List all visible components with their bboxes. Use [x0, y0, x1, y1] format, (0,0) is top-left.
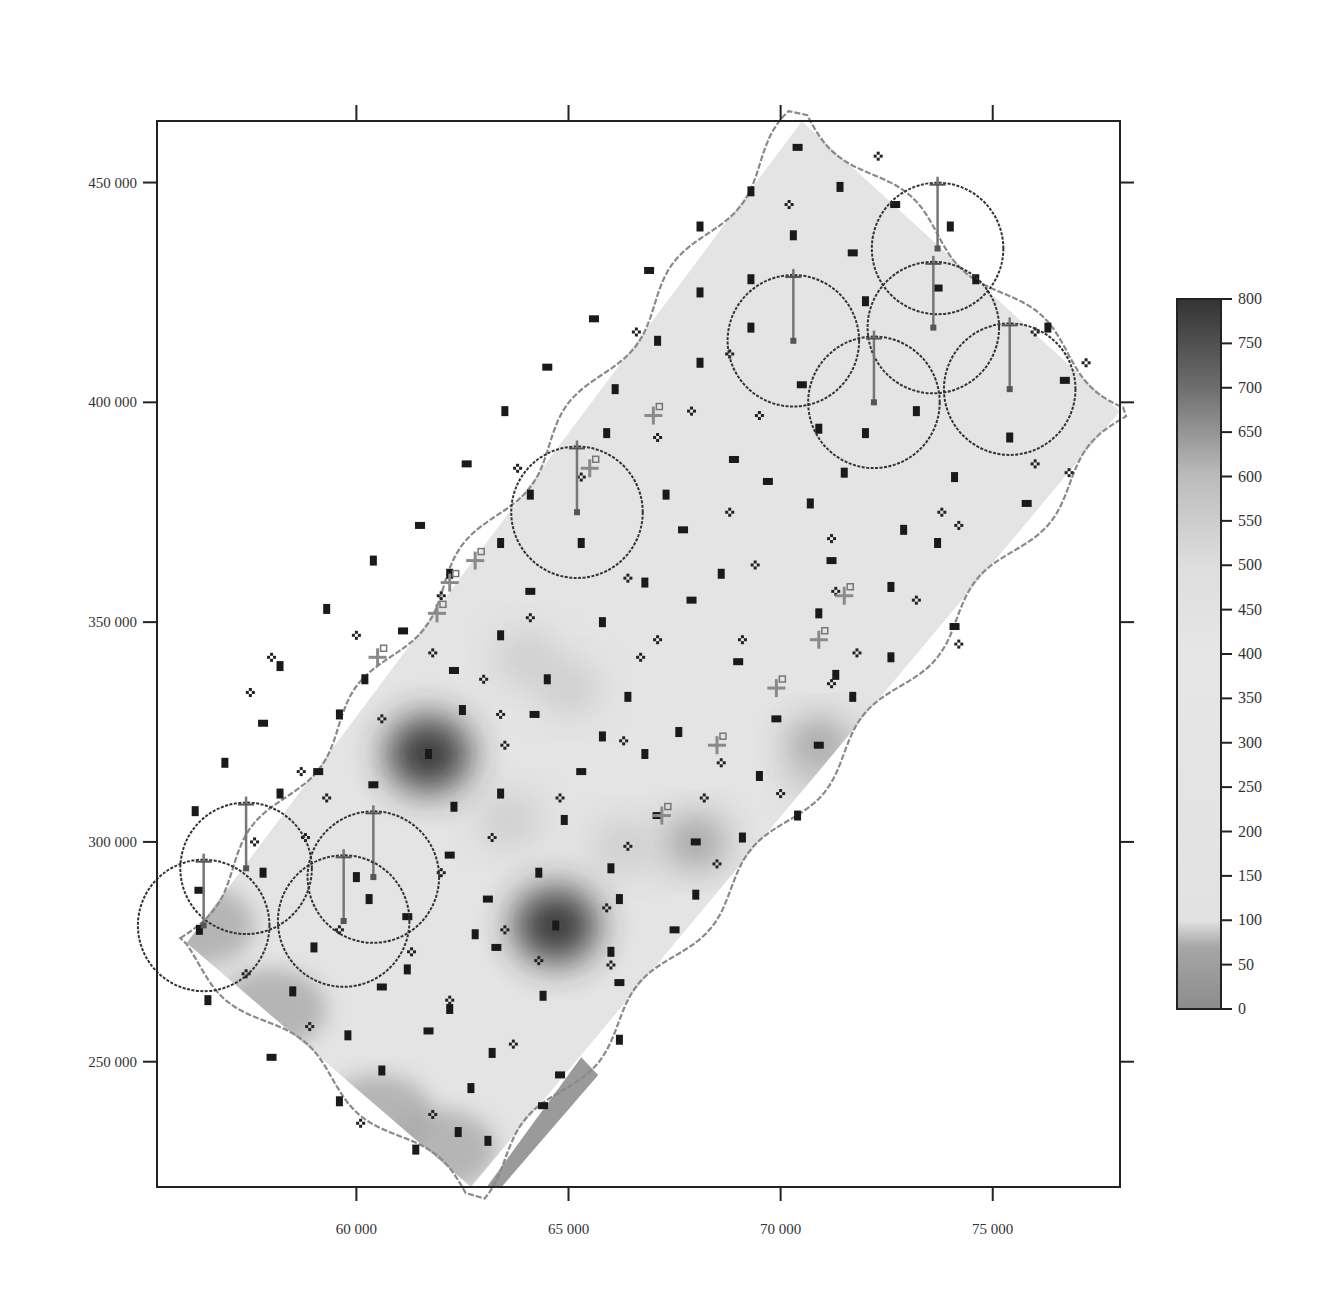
- y-tick-label: 250 000: [88, 1054, 137, 1070]
- diamond-dot: [270, 653, 273, 656]
- diamond-dot: [855, 648, 858, 651]
- sample-point: [402, 913, 412, 920]
- sample-point: [599, 617, 606, 627]
- diamond-dot: [791, 203, 794, 206]
- diamond-dot: [431, 648, 434, 651]
- sample-point: [450, 802, 457, 812]
- sample-point: [415, 522, 425, 529]
- diamond-dot: [720, 758, 723, 761]
- diamond-dot: [311, 1025, 314, 1028]
- sample-point: [313, 768, 323, 775]
- diamond-dot: [559, 799, 562, 802]
- diamond-dot: [380, 714, 383, 717]
- diamond-dot: [635, 328, 638, 331]
- diamond-dot: [434, 1113, 437, 1116]
- sample-point: [353, 872, 360, 882]
- sample-point: [467, 1083, 474, 1093]
- diamond-dot: [609, 961, 612, 964]
- sample-point: [616, 1035, 623, 1045]
- circle-center: [1007, 386, 1013, 392]
- diamond-dot: [1034, 459, 1037, 462]
- diamond-dot: [731, 511, 734, 514]
- sample-point: [599, 731, 606, 741]
- diamond-dot: [451, 999, 454, 1002]
- diamond-dot: [355, 637, 358, 640]
- sample-point: [951, 472, 958, 482]
- diamond-dot: [602, 906, 605, 909]
- diamond-dot: [516, 470, 519, 473]
- diamond-marker: [246, 688, 255, 697]
- sample-point: [887, 652, 894, 662]
- diamond-dot: [246, 691, 249, 694]
- diamond-dot: [362, 1122, 365, 1125]
- sample-point: [763, 478, 773, 485]
- sample-point: [361, 674, 368, 684]
- sample-point: [497, 789, 504, 799]
- sample-point: [336, 1096, 343, 1106]
- diamond-dot: [515, 1043, 518, 1046]
- sample-point: [267, 1054, 277, 1061]
- sample-point: [446, 1004, 453, 1014]
- diamond-dot: [855, 654, 858, 657]
- sample-point: [837, 182, 844, 192]
- diamond-dot: [431, 654, 434, 657]
- diamond-dot: [623, 577, 626, 580]
- diamond-dot: [785, 203, 788, 206]
- diamond-dot: [940, 514, 943, 517]
- diamond-dot: [960, 643, 963, 646]
- diamond-dot: [562, 796, 565, 799]
- sample-point: [368, 781, 378, 788]
- diamond-dot: [706, 796, 709, 799]
- sample-point: [612, 384, 619, 394]
- sample-point: [459, 705, 466, 715]
- diamond-dot: [877, 158, 880, 161]
- cross-tag: [381, 645, 387, 651]
- diamond-dot: [877, 152, 880, 155]
- sample-point: [1022, 500, 1032, 507]
- sample-point: [950, 623, 960, 630]
- sample-point: [614, 979, 624, 986]
- diamond-dot: [606, 964, 609, 967]
- sample-point: [489, 1048, 496, 1058]
- diamond-dot: [300, 767, 303, 770]
- sample-point: [530, 711, 540, 718]
- sample-point: [323, 604, 330, 614]
- diamond-dot: [629, 577, 632, 580]
- diamond-dot: [1068, 468, 1071, 471]
- diamond-dot: [954, 643, 957, 646]
- diamond-dot: [583, 476, 586, 479]
- circle-center: [790, 338, 796, 344]
- circle-center: [201, 922, 207, 928]
- sample-point: [807, 498, 814, 508]
- diamond-dot: [758, 417, 761, 420]
- sample-point: [192, 806, 199, 816]
- diamond-dot: [245, 969, 248, 972]
- diamond-dot: [434, 651, 437, 654]
- sample-point: [692, 890, 699, 900]
- sample-point: [747, 323, 754, 333]
- diamond-dot: [852, 651, 855, 654]
- diamond-dot: [690, 413, 693, 416]
- diamond-dot: [352, 634, 355, 637]
- sample-point: [794, 811, 801, 821]
- diamond-dot: [943, 511, 946, 514]
- sample-point: [841, 468, 848, 478]
- x-tick-label: 70 000: [760, 1221, 801, 1237]
- sample-point: [641, 578, 648, 588]
- diamond-dot: [642, 656, 645, 659]
- diamond-dot: [1031, 462, 1034, 465]
- diamond-dot: [751, 563, 754, 566]
- diamond-dot: [448, 1002, 451, 1005]
- diamond-dot: [754, 560, 757, 563]
- diamond-dot: [830, 540, 833, 543]
- diamond-dot: [626, 580, 629, 583]
- sample-point: [687, 597, 697, 604]
- sample-point: [624, 692, 631, 702]
- diamond-dot: [880, 155, 883, 158]
- diamond-dot: [308, 1022, 311, 1025]
- sample-point: [370, 556, 377, 566]
- diamond-dot: [957, 646, 960, 649]
- diamond-dot: [359, 1125, 362, 1128]
- diamond-dot: [383, 717, 386, 720]
- sample-point: [277, 661, 284, 671]
